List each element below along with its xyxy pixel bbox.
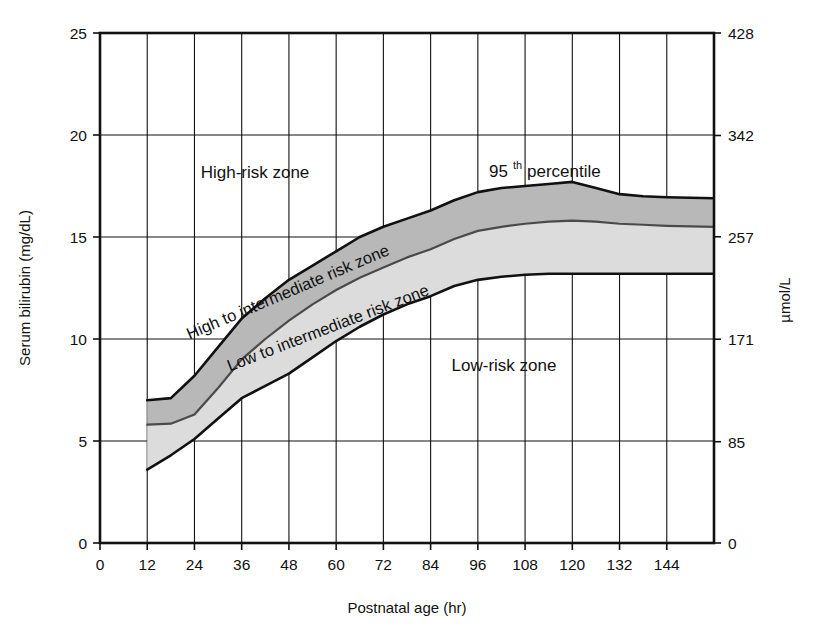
bilirubin-nomogram-figure: 01224364860728496108120132144 0510152025… [0, 0, 814, 631]
x-tick-label: 60 [328, 556, 346, 573]
y-tick-label: 25 [70, 25, 87, 42]
x-tick-label: 72 [375, 556, 392, 573]
y-tick-label: 5 [78, 433, 87, 450]
y-tick-label: 20 [70, 127, 88, 144]
y-tick-label: 0 [78, 535, 87, 552]
x-tick-label: 96 [469, 556, 486, 573]
y-axis-title: Serum bilirubin (mg/dL) [16, 210, 33, 366]
percentile-number: 95 [489, 162, 508, 181]
y-tick-label-right: 257 [728, 229, 754, 246]
x-tick-label: 108 [512, 556, 538, 573]
x-tick-label: 12 [139, 556, 156, 573]
y-axis-title-right: µmol/L [776, 277, 793, 322]
low-risk-zone-label: Low-risk zone [452, 356, 557, 375]
y-tick-label-right: 0 [728, 535, 737, 552]
y-tick-label: 10 [70, 331, 88, 348]
x-tick-label: 48 [280, 556, 297, 573]
y-tick-label-right: 171 [728, 331, 754, 348]
y-tick-label-right: 342 [728, 127, 754, 144]
percentile-word: percentile [527, 162, 601, 181]
y-tick-label-right: 428 [728, 25, 754, 42]
x-tick-label: 84 [422, 556, 440, 573]
x-tick-label: 36 [233, 556, 250, 573]
x-tick-label: 0 [96, 556, 105, 573]
x-axis-title: Postnatal age (hr) [347, 599, 466, 616]
percentile-annotation: 95 th percentile [489, 159, 601, 181]
chart-svg: 01224364860728496108120132144 0510152025… [0, 0, 814, 631]
x-tick-label: 132 [607, 556, 633, 573]
x-tick-label: 120 [559, 556, 585, 573]
percentile-superscript: th [513, 159, 522, 171]
x-tick-label: 144 [654, 556, 680, 573]
y-tick-label: 15 [70, 229, 87, 246]
x-tick-label: 24 [186, 556, 204, 573]
high-risk-zone-label: High-risk zone [201, 163, 310, 182]
y-tick-label-right: 85 [728, 434, 745, 451]
